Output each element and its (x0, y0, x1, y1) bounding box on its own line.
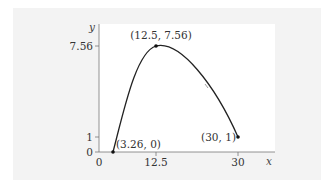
y-tick-label: 7.56 (70, 40, 94, 52)
y-tick-label: 1 (86, 131, 93, 143)
x-tick-label: 0 (96, 156, 103, 168)
annotation-peak: (12.5, 7.56) (130, 29, 192, 41)
x-axis-label: x (266, 155, 272, 167)
point-end (236, 135, 240, 139)
annotation-end: (30, 1) (201, 131, 236, 143)
plot-area (99, 24, 275, 152)
y-tick-label: 0 (86, 146, 93, 158)
y-axis-label: y (88, 21, 96, 33)
x-tick-label: 12.5 (144, 156, 167, 168)
annotation-start: (3.26, 0) (116, 138, 161, 150)
point-start (111, 150, 115, 154)
x-tick-label: 30 (231, 156, 244, 168)
chart: 7.56 1 0 0 12.5 30 y x (3.26, 0) (12.5, … (0, 0, 332, 188)
point-peak (154, 44, 158, 48)
